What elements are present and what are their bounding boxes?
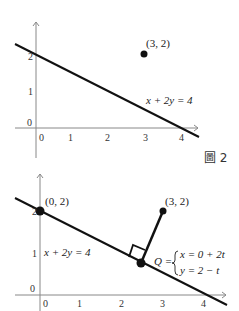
figure-label: 圖 2 bbox=[204, 148, 227, 165]
bottom-x-tick: 0 bbox=[43, 298, 48, 309]
bottom-x-tick: 3 bbox=[160, 298, 165, 309]
bottom-x-tick: 4 bbox=[201, 298, 206, 309]
top-x-tick: 2 bbox=[105, 132, 110, 143]
bottom-y-tick: 1 bbox=[32, 248, 37, 259]
top-x-tick: 4 bbox=[179, 132, 184, 143]
right-angle-marker bbox=[129, 245, 145, 257]
top-y-tick: 1 bbox=[28, 86, 33, 97]
point-q bbox=[137, 259, 146, 268]
q-eq2: y = 2 − t bbox=[179, 264, 220, 276]
bottom-x-tick: 2 bbox=[119, 298, 124, 309]
bottom-y-tick: 0 bbox=[30, 283, 35, 294]
point-a-label: (0, 2) bbox=[45, 195, 69, 208]
bottom-y-tick: 2 bbox=[32, 206, 37, 217]
point-3-2 bbox=[160, 208, 167, 215]
top-x-tick: 1 bbox=[68, 132, 73, 143]
top-x-tick: 0 bbox=[39, 132, 44, 143]
top-y-tick: 2 bbox=[28, 51, 33, 62]
q-label: Q = bbox=[154, 255, 172, 267]
bottom-line-label: x + 2y = 4 bbox=[43, 246, 91, 258]
top-y-tick: 0 bbox=[27, 117, 32, 128]
top-point-3-2 bbox=[141, 51, 148, 58]
top-line bbox=[15, 44, 199, 137]
bottom-x-tick: 1 bbox=[77, 298, 82, 309]
q-eq1: x = 0 + 2t bbox=[179, 248, 226, 260]
top-x-tick: 3 bbox=[143, 132, 148, 143]
brace-icon bbox=[172, 251, 178, 275]
point-b-label: (3, 2) bbox=[165, 195, 189, 208]
top-point-label: (3, 2) bbox=[146, 37, 170, 50]
bottom-plot: (0, 2) (3, 2) x + 2y = 4 Q = x = 0 + 2t … bbox=[15, 174, 227, 311]
top-plot: (3, 2) x + 2y = 4 0 1 2 3 4 0 1 2 bbox=[15, 22, 199, 158]
top-line-label: x + 2y = 4 bbox=[145, 94, 193, 106]
